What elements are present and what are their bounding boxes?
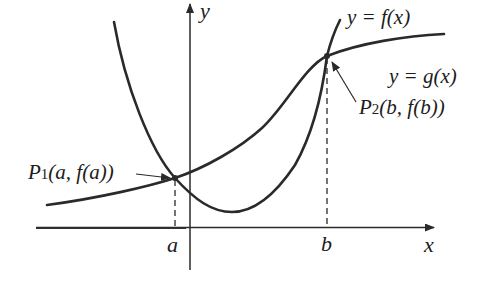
tick-label-b: b [321, 233, 332, 255]
p2-name: P [359, 95, 372, 119]
point-p1 [172, 175, 178, 181]
point-p1-label: P1(a, f(a)) [28, 162, 114, 183]
curve-f [114, 20, 340, 212]
y-axis-label: y [200, 0, 210, 22]
curve-g-label: y = g(x) [389, 66, 457, 87]
tick-label-a: a [167, 234, 178, 256]
x-axis-label: x [424, 234, 434, 256]
p1-pointer-arrow [136, 174, 170, 178]
p2-coords: (b, f(b)) [379, 95, 444, 119]
curve-f-label: y = f(x) [347, 7, 410, 28]
diagram-canvas: y x a b y = f(x) y = g(x) P1(a, f(a)) P2… [0, 0, 499, 285]
p2-pointer-arrow [332, 62, 356, 102]
point-p2 [324, 53, 330, 59]
p1-name: P [28, 160, 41, 184]
p1-coords: (a, f(a)) [48, 160, 113, 184]
point-p2-label: P2(b, f(b)) [359, 97, 445, 118]
